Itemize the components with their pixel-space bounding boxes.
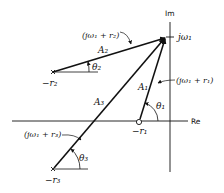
- vector-A3: [54, 39, 164, 168]
- A1-label: A₁: [137, 82, 148, 92]
- s-plane-diagram: Im Re jω₁ −r₂ −r₁ −r₃ A₂ A₁ A₃ θ₂ θ₁ θ₃ …: [0, 0, 224, 193]
- A2-label: A₂: [97, 45, 108, 55]
- A3-label: A₃: [93, 97, 104, 107]
- im-axis-label: Im: [165, 9, 175, 18]
- theta2-label: θ₂: [92, 62, 101, 72]
- leader-arrow-A2: [120, 32, 131, 44]
- leader-arrow-A1: [158, 80, 175, 83]
- re-axis-label: Re: [191, 117, 201, 126]
- neg-r1-label: −r₁: [132, 126, 147, 136]
- zero-marker-r1: [136, 119, 141, 124]
- neg-r3-label: −r₃: [45, 175, 61, 185]
- vector-A2: [53, 38, 165, 72]
- neg-r2-label: −r₂: [42, 78, 58, 88]
- A2-expression: (jω₁ + r₂): [82, 31, 119, 40]
- theta3-label: θ₃: [79, 153, 88, 163]
- theta1-label: θ₁: [156, 101, 165, 111]
- A1-expression: (jω₁ + r₁): [176, 76, 213, 85]
- A3-expression: (jω₁ + r₃): [24, 130, 61, 139]
- angle-arc-theta2: [88, 62, 89, 72]
- jw1-label: jω₁: [176, 32, 192, 42]
